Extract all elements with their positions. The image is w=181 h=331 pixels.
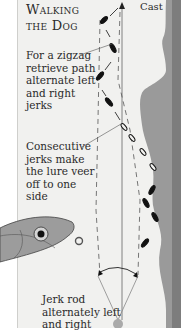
rod-swing-arc-icon [100, 267, 136, 274]
right-dashed-path [118, 12, 140, 275]
cast-label: Cast [140, 1, 163, 12]
left-dashed-path [96, 20, 100, 275]
rod-jerk-note: Jerk rod alternately left and right [42, 293, 132, 331]
diagram-title: Walking the Dog [26, 2, 79, 34]
fish-lure-icon [0, 217, 83, 262]
title-line-1: Walking [26, 2, 79, 18]
consecutive-jerks-note: Consecutive jerks make the lure veer off… [26, 140, 96, 203]
title-line-2: the Dog [26, 18, 79, 34]
zigzag-note: For a zigzag retrieve path alternate lef… [26, 49, 96, 112]
cast-arrow-icon [119, 2, 125, 9]
